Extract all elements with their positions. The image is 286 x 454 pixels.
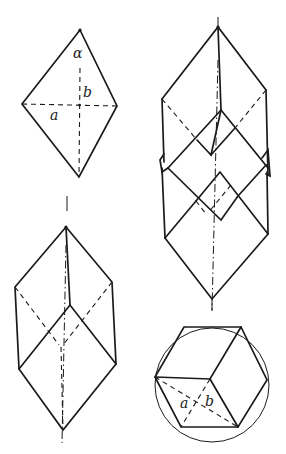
hexagonal-projection-panel: a b bbox=[155, 300, 269, 442]
upper-hidden-left bbox=[162, 99, 197, 140]
rhombus-outline bbox=[22, 30, 117, 177]
upper-unit-outline bbox=[162, 27, 266, 99]
projection-label-a: a bbox=[180, 395, 188, 411]
rhombohedron-front-vertical-edge bbox=[66, 227, 70, 305]
upper-unit-front-right bbox=[221, 110, 268, 168]
upper-unit-right-edge bbox=[266, 90, 268, 175]
rhombohedron-front-edges bbox=[19, 305, 116, 369]
upper-unit-front-edge bbox=[218, 27, 221, 110]
upper-unit-front-left bbox=[168, 110, 221, 168]
circumscribed-circle bbox=[155, 328, 269, 442]
diagonal-label-a: a bbox=[50, 107, 58, 123]
rhombohedron-apex bbox=[64, 225, 67, 228]
hexagon-inner-edge-down bbox=[210, 379, 238, 427]
lower-unit-bottom bbox=[165, 234, 268, 299]
hexagon-inner-edges bbox=[155, 327, 241, 379]
lower-hidden-right bbox=[208, 185, 231, 213]
projection-label-b: b bbox=[205, 393, 214, 409]
upper-unit-left-edge bbox=[162, 99, 164, 162]
rhombus-vertex-top bbox=[78, 28, 81, 31]
lower-unit-inner-top bbox=[196, 172, 268, 234]
rhombus-panel: α b a bbox=[22, 28, 117, 211]
lower-unit-right-edge bbox=[267, 172, 268, 233]
lower-unit-left-edge bbox=[162, 168, 165, 238]
short-diagonal bbox=[22, 104, 117, 106]
stacked-rhombohedra-panel bbox=[160, 17, 270, 310]
hidden-edge-left bbox=[15, 287, 59, 345]
lower-unit-mid-v bbox=[168, 168, 238, 220]
rhombus-center bbox=[78, 104, 81, 107]
lower-unit-top-right-edge bbox=[238, 165, 266, 196]
long-diagonal bbox=[79, 68, 80, 177]
angle-label-alpha: α bbox=[73, 45, 83, 61]
stack-apex bbox=[216, 25, 219, 28]
diagonal-label-b: b bbox=[83, 84, 92, 100]
figure-canvas: α b a bbox=[0, 0, 286, 454]
upper-hidden-right bbox=[235, 90, 266, 128]
rhombohedron-panel bbox=[15, 225, 116, 443]
stack-axis bbox=[212, 60, 218, 310]
lower-unit-inner-left bbox=[165, 201, 196, 238]
hidden-edge-right bbox=[63, 282, 112, 345]
